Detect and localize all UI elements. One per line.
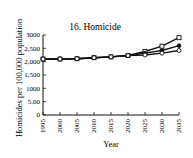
x-tick-label: 2010 <box>90 119 98 134</box>
chart-title: 16. Homicide <box>69 22 121 32</box>
open-circle-marker-icon <box>160 51 164 55</box>
y-axis-label: Homicides per 100,000 population <box>14 18 24 137</box>
x-tick-label: 2025 <box>141 119 149 134</box>
x-tick-label: 2015 <box>107 119 115 134</box>
y-tick-label: 5,00 <box>28 98 41 106</box>
y-tick-label: 2,500 <box>24 45 40 53</box>
square-marker-icon <box>177 36 181 40</box>
line-chart: 16. Homicide Homicides per 100,000 popul… <box>0 0 193 158</box>
open-circle-marker-icon <box>41 57 45 61</box>
x-tick-label: 2030 <box>158 119 166 134</box>
x-tick-label: 2000 <box>56 119 64 134</box>
y-tick-label: 2,000 <box>24 58 40 66</box>
open-circle-marker-icon <box>143 53 147 57</box>
data-series <box>41 36 181 61</box>
filled-circle-marker-icon <box>177 44 181 48</box>
x-tick-label: 2035 <box>175 119 183 134</box>
x-tick-label: 2005 <box>73 119 81 134</box>
open-circle-marker-icon <box>177 48 181 52</box>
x-tick-label: 1995 <box>39 119 47 134</box>
y-tick-label: 1,500 <box>24 71 40 79</box>
open-circle-marker-icon <box>75 57 79 61</box>
square-marker-icon <box>160 44 164 48</box>
open-circle-marker-icon <box>92 56 96 60</box>
x-tick-label: 2020 <box>124 119 132 134</box>
open-circle-marker-icon <box>126 54 130 58</box>
open-circle-marker-icon <box>58 57 62 61</box>
y-tick-label: 3000 <box>26 31 41 39</box>
y-tick-label: 1000 <box>26 85 41 93</box>
y-tick-label: 0 <box>37 111 41 119</box>
open-circle-marker-icon <box>109 55 113 59</box>
x-axis-label: Year <box>103 139 119 149</box>
